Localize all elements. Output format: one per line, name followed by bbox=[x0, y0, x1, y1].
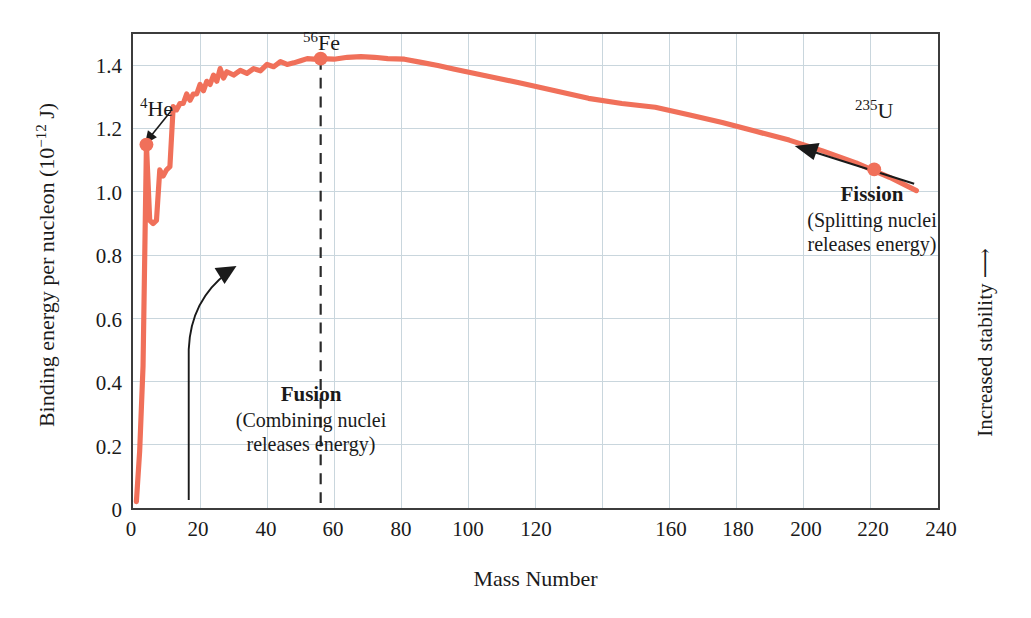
x-tick-label: 240 bbox=[925, 519, 957, 540]
increased-stability-label: Increased stability ⟶ bbox=[973, 163, 998, 523]
isotope-label-u235: 235U bbox=[855, 98, 893, 124]
y-tick-label: 1.0 bbox=[96, 183, 122, 204]
y-tick-label: 1.2 bbox=[96, 119, 122, 140]
fusion-annotation-line1: (Combining nuclei bbox=[196, 408, 426, 432]
fission-annotation-line2: releases energy) bbox=[749, 232, 995, 256]
x-axis-title: Mass Number bbox=[131, 566, 940, 592]
x-tick-label: 40 bbox=[256, 519, 277, 540]
y-axis-title: Binding energy per nucleon (10−12 J) bbox=[34, 50, 60, 480]
increased-stability-text: Increased stability bbox=[973, 284, 997, 437]
y-axis-title-suffix: J) bbox=[34, 103, 59, 124]
binding-energy-figure: 1.4 1.2 1.0 0.8 0.6 0.4 0.2 0 Binding en… bbox=[0, 0, 1031, 618]
fission-annotation: Fission (Splitting nuclei releases energ… bbox=[749, 182, 995, 256]
isotope-label-fe56: 56Fe bbox=[303, 30, 340, 56]
fission-annotation-heading: Fission bbox=[749, 182, 995, 208]
x-tick-label: 180 bbox=[722, 519, 754, 540]
x-tick-label: 0 bbox=[126, 519, 137, 540]
y-axis-title-exponent: −12 bbox=[33, 124, 49, 147]
x-tick-label: 100 bbox=[452, 519, 484, 540]
fission-arrow bbox=[795, 143, 914, 184]
marker-he4 bbox=[139, 138, 153, 152]
fusion-annotation-heading: Fusion bbox=[196, 382, 426, 408]
y-tick-label: 0.4 bbox=[96, 373, 122, 394]
x-tick-label: 60 bbox=[323, 519, 344, 540]
x-tick-label: 120 bbox=[520, 519, 552, 540]
y-tick-label: 0 bbox=[112, 500, 123, 521]
isotope-symbol: He bbox=[147, 96, 173, 121]
y-tick-label: 0.6 bbox=[96, 310, 122, 331]
fusion-annotation: Fusion (Combining nuclei releases energy… bbox=[196, 382, 426, 456]
x-tick-label: 20 bbox=[188, 519, 209, 540]
fusion-annotation-line2: releases energy) bbox=[196, 432, 426, 456]
x-tick-label: 160 bbox=[655, 519, 687, 540]
x-tick-label: 80 bbox=[391, 519, 412, 540]
y-tick-label: 1.4 bbox=[96, 56, 122, 77]
isotope-mass-number: 56 bbox=[303, 29, 318, 45]
fission-annotation-line1: (Splitting nuclei bbox=[749, 208, 995, 232]
marker-u235 bbox=[867, 162, 881, 176]
y-tick-label: 0.2 bbox=[96, 437, 122, 458]
y-axis-title-prefix: Binding energy per nucleon (10 bbox=[34, 148, 59, 427]
y-tick-label: 0.8 bbox=[96, 246, 122, 267]
isotope-symbol: U bbox=[877, 98, 893, 123]
isotope-symbol: Fe bbox=[318, 30, 340, 55]
up-arrow-icon: ⟶ bbox=[973, 248, 997, 278]
isotope-label-he4: 4He bbox=[140, 96, 173, 122]
x-tick-label: 220 bbox=[857, 519, 889, 540]
isotope-mass-number: 235 bbox=[855, 97, 877, 113]
x-tick-label: 200 bbox=[790, 519, 822, 540]
x-axis-tick-labels: 0 20 40 60 80 100 120 160 180 200 220 24… bbox=[0, 519, 1031, 549]
